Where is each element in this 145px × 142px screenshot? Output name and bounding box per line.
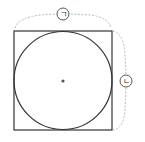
label-top: ㄱ <box>57 8 69 20</box>
label-right: ㄴ <box>120 75 132 87</box>
geometry-diagram: ㄱ ㄴ <box>0 0 145 142</box>
center-point <box>61 79 64 82</box>
label-top-text: ㄱ <box>60 10 67 19</box>
label-right-text: ㄴ <box>123 77 130 86</box>
